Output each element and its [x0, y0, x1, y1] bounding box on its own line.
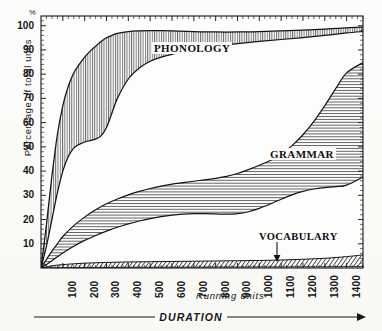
y-axis-unit: %: [29, 8, 36, 17]
x-tick-label: 1100: [285, 276, 296, 299]
y-tick-label: 30: [8, 190, 34, 200]
y-tick-label: 90: [8, 45, 34, 55]
x-tick-label: 400: [132, 281, 143, 298]
duration-text: DURATION: [155, 311, 226, 323]
y-tick-label: 20: [8, 215, 34, 225]
label-phonology-text: PHONOLOGY: [152, 42, 232, 54]
x-tick-label: 1300: [329, 275, 340, 298]
y-tick-label: 40: [8, 166, 34, 176]
y-tick-label: 80: [8, 69, 34, 79]
label-grammar-text: GRAMMAR: [268, 148, 336, 160]
y-tick-label: 10: [8, 239, 34, 249]
x-tick-label: 600: [176, 281, 187, 298]
x-tick-label: 100: [67, 281, 78, 298]
x-axis-title: Running units: [196, 290, 265, 301]
x-tick-label: 200: [89, 281, 100, 298]
y-tick-label: 70: [8, 93, 34, 103]
label-vocabulary-text: VOCABULARY: [257, 231, 340, 242]
label-vocabulary: VOCABULARY: [257, 231, 340, 242]
x-tick-label: 1000: [263, 275, 274, 298]
x-tick-label: 500: [154, 281, 165, 298]
duration-label: DURATION: [0, 311, 382, 323]
y-tick-label: 50: [8, 142, 34, 152]
y-tick-label: 60: [8, 118, 34, 128]
x-tick-label: 1200: [307, 275, 318, 298]
label-grammar: GRAMMAR: [268, 148, 336, 160]
x-tick-label: 1400: [351, 275, 362, 298]
y-tick-label: 100: [2, 21, 34, 31]
figure-root: Percentage of total units % 102030405060…: [0, 0, 382, 331]
x-tick-label: 300: [110, 281, 121, 298]
label-phonology: PHONOLOGY: [152, 42, 232, 54]
